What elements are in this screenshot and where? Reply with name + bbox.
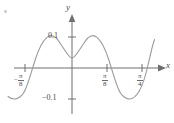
x-axis-arrow bbox=[158, 65, 166, 72]
x-tick-label-pi-over-8: π 8 bbox=[102, 73, 108, 89]
y-axis-arrow bbox=[69, 14, 76, 22]
plot-canvas bbox=[0, 0, 174, 123]
fraction-denominator: 8 bbox=[18, 81, 24, 88]
fraction-pi-over-4: π 4 bbox=[137, 73, 143, 89]
x-tick-label-minus-pi-over-8: − π 8 bbox=[14, 73, 24, 89]
cosine-curve bbox=[8, 36, 155, 99]
fraction-denominator: 4 bbox=[137, 81, 143, 88]
y-tick-label-minus-0.1: −0.1 bbox=[42, 94, 57, 102]
y-tick-label-0.1: 0.1 bbox=[48, 32, 58, 40]
x-axis-label: x bbox=[166, 61, 170, 70]
fraction-denominator: 8 bbox=[102, 81, 108, 88]
x-tick-label-pi-over-4: π 4 bbox=[137, 73, 143, 89]
fraction-pi-over-8: π 8 bbox=[18, 73, 24, 89]
graph-figure: y x 0.1 −0.1 − π 8 π 8 π 4 bbox=[0, 0, 174, 123]
y-axis-label: y bbox=[66, 3, 70, 12]
fraction-pi-over-8: π 8 bbox=[102, 73, 108, 89]
